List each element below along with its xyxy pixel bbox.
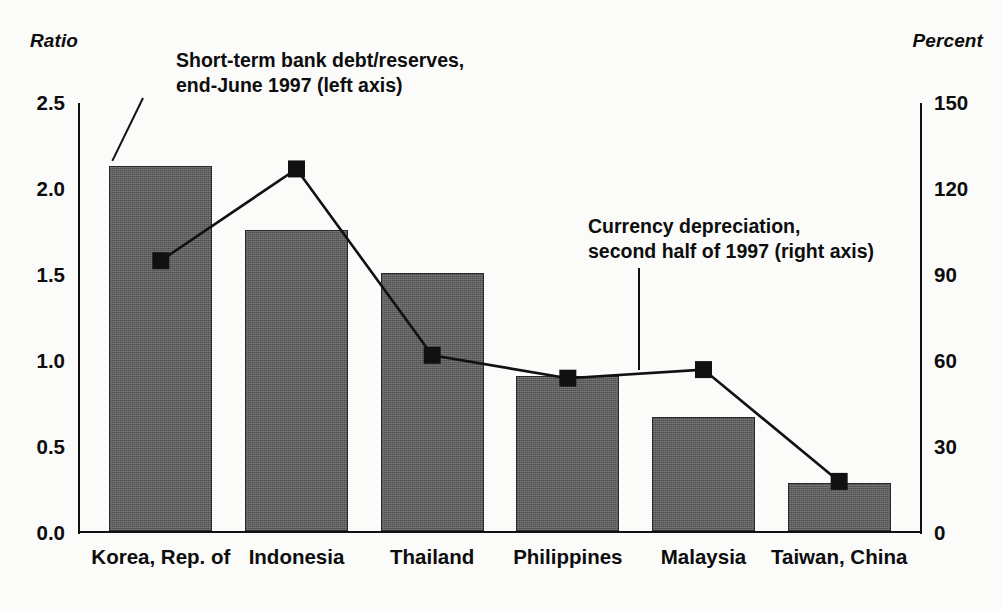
line-marker [424,347,441,364]
line-series-layer [78,103,922,533]
category-label: Korea, Rep. of [91,545,230,569]
category-label: Indonesia [249,545,345,569]
category-label: Thailand [390,545,474,569]
left-axis-tick: 1.5 [37,265,66,286]
left-axis-tick: 2.5 [37,93,66,114]
right-axis-tick: 60 [934,351,957,372]
currency-depreciation-polyline [161,169,839,481]
category-label: Malaysia [661,545,746,569]
right-axis-unit-label: Percent [913,30,983,52]
category-label: Taiwan, China [771,545,907,569]
line-marker [695,361,712,378]
left-axis-tick: 0.0 [37,523,66,544]
line-marker [288,160,305,177]
right-axis-tick: 150 [934,93,968,114]
category-label: Philippines [513,545,622,569]
currency-depreciation-markers [152,160,847,489]
left-axis-tick: 2.0 [37,179,66,200]
annotation-bar-series: Short-term bank debt/reserves, end-June … [176,48,464,97]
left-axis-tick: 0.5 [37,437,66,458]
line-marker [152,252,169,269]
line-marker [831,473,848,490]
plot-area: 0.00.51.01.52.02.5 0306090120150 Korea, … [78,103,922,533]
right-axis-tick: 30 [934,437,957,458]
left-axis-tick: 1.0 [37,351,66,372]
right-axis-tick: 0 [934,523,945,544]
left-axis-unit-label: Ratio [30,30,78,52]
right-axis-tick: 120 [934,179,968,200]
right-axis-tick: 90 [934,265,957,286]
chart-figure: Ratio Percent Short-term bank debt/reser… [0,0,1001,609]
line-marker [559,370,576,387]
